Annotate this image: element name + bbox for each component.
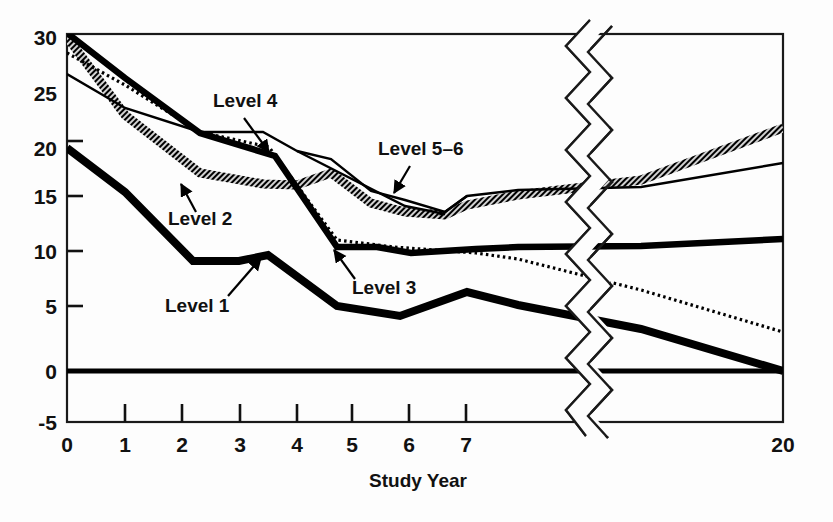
line-chart: 30 25 20 15 10 5 0 -5 0 1 2 3 4 5 6 7 20… [0,0,833,522]
annotation-label-level-1: Level 1 [165,295,230,316]
x-tick-label-5: 5 [346,433,358,456]
y-tick-label-20: 20 [34,137,57,160]
y-tick-label-5: 5 [45,295,57,318]
x-tick-label-6: 6 [403,433,415,456]
annotation-label-level-3: Level 3 [352,277,416,298]
x-tick-label-4: 4 [291,433,303,456]
y-tick-label-neg5: -5 [38,411,57,434]
x-axis-title: Study Year [369,470,467,491]
x-tick-label-0: 0 [61,433,73,456]
x-tick-label-7: 7 [460,433,472,456]
y-tick-label-30: 30 [34,26,57,49]
y-tick-label-10: 10 [34,240,57,263]
x-tick-label-2: 2 [176,433,188,456]
annotation-label-level-4: Level 4 [213,90,278,111]
x-tick-label-20: 20 [771,433,794,456]
y-tick-label-0: 0 [45,360,57,383]
chart-container: 30 25 20 15 10 5 0 -5 0 1 2 3 4 5 6 7 20… [0,0,833,522]
y-tick-label-25: 25 [34,82,58,105]
annotation-label-level-2: Level 2 [168,208,232,229]
x-tick-label-1: 1 [119,433,131,456]
annotation-label-level-5-6: Level 5–6 [378,138,464,159]
x-tick-label-3: 3 [234,433,246,456]
y-tick-label-15: 15 [34,185,58,208]
